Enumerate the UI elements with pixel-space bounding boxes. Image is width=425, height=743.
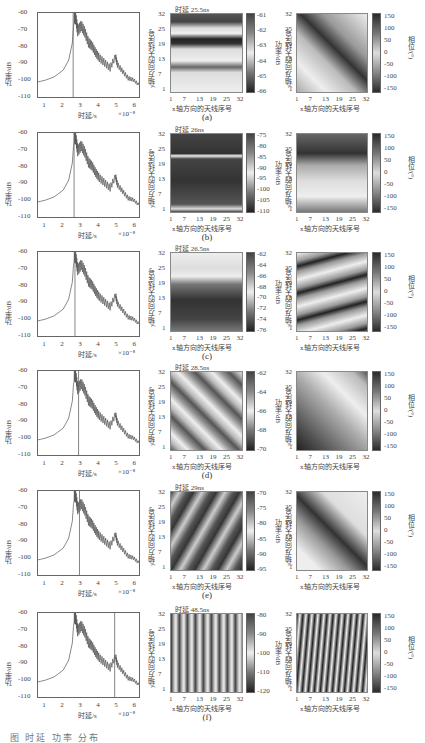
antenna-xtick: 13 [196, 215, 203, 223]
antenna-xtick: 1 [169, 695, 173, 703]
antenna-ytick: 7 [158, 548, 162, 556]
antenna-xtick: 7 [309, 573, 313, 581]
power-colorbar-tick: -70 [257, 293, 266, 301]
power-delay-plot [37, 490, 140, 576]
power-delay-plot [37, 12, 140, 98]
power-map-ylabel: y轴方向的天线序号 [147, 148, 157, 208]
antenna-ytick: 7 [285, 309, 289, 317]
phase-colorbar-tick: 100 [384, 502, 395, 510]
phase-colorbar-label: 相位/(°) [406, 636, 416, 672]
delay-xtick: 1 [42, 340, 46, 348]
delay-xtick: 1 [42, 459, 46, 467]
antenna-xtick: 13 [322, 453, 329, 461]
delay-xtick: 3 [78, 340, 82, 348]
antenna-xtick: 25 [223, 95, 230, 103]
antenna-ytick: 19 [285, 518, 292, 526]
antenna-ytick: 25 [158, 503, 165, 511]
power-colorbar-tick: -90 [257, 164, 266, 172]
antenna-xtick: 32 [237, 95, 244, 103]
power-colorbar-tick: -61 [257, 11, 266, 19]
subfigure-label: (b) [195, 232, 219, 242]
power-colorbar-tick: -66 [257, 87, 266, 95]
delay-xtick: 5 [114, 340, 118, 348]
antenna-xtick: 32 [237, 334, 244, 342]
phase-colorbar-tick: 100 [384, 263, 395, 271]
delay-xtick: 4 [96, 340, 100, 348]
antenna-ytick: 25 [158, 383, 165, 391]
antenna-xtick: 19 [210, 215, 217, 223]
power-colorbar-tick: -65 [257, 72, 266, 80]
power-colorbar-tick: -64 [257, 261, 266, 269]
delay-multiplier: ×10⁻⁸ [118, 588, 135, 596]
antenna-ytick: 25 [285, 264, 292, 272]
antenna-ytick: 19 [285, 279, 292, 287]
antenna-ytick: 7 [158, 190, 162, 198]
phase-colorbar [372, 252, 381, 332]
power-colorbar-tick: -80 [257, 611, 266, 619]
delay-multiplier: ×10⁻⁸ [118, 468, 135, 476]
power-ytick: -70 [18, 625, 27, 633]
power-ytick: -80 [18, 42, 27, 50]
phase-colorbar-tick: 0 [384, 168, 388, 176]
phase-colorbar-tick: -150 [384, 84, 397, 92]
figure-row-d: 功率/dB -60-70-80-90-100-110 123456 时延/s ×… [0, 364, 425, 484]
power-ytick: -90 [18, 297, 27, 305]
delay-xtick: 3 [78, 701, 82, 709]
power-ytick: -100 [18, 195, 31, 203]
antenna-xtick: 32 [363, 334, 370, 342]
delay-xtick: 3 [78, 459, 82, 467]
power-map-ylabel: y轴方向的天线序号 [147, 267, 157, 327]
power-colorbar [246, 613, 255, 693]
power-colorbar-tick: -64 [257, 57, 266, 65]
power-colorbar-tick: -63 [257, 41, 266, 49]
power-delay-curve [38, 13, 139, 97]
antenna-ytick: 7 [285, 70, 289, 78]
phase-colorbar-tick: 0 [384, 648, 388, 656]
power-delay-curve [38, 491, 139, 575]
antenna-xtick: 1 [169, 334, 173, 342]
subfigure-label: (d) [195, 470, 219, 480]
phase-colorbar-tick: -100 [384, 430, 397, 438]
phase-colorbar-tick: -50 [384, 180, 393, 188]
antenna-xtick: 19 [210, 95, 217, 103]
phase-map-xlabel: x轴方向的天线序号 [300, 703, 360, 713]
delay-xtick: 5 [114, 101, 118, 109]
power-ytick: -60 [18, 366, 27, 374]
antenna-xtick: 7 [309, 453, 313, 461]
delay-xtick: 6 [132, 340, 136, 348]
antenna-ytick: 19 [158, 279, 165, 287]
power-ytick: -70 [18, 25, 27, 33]
power-ytick: -90 [18, 536, 27, 544]
antenna-ytick: 32 [158, 249, 165, 257]
power-colorbar-tick: -76 [257, 326, 266, 334]
antenna-ytick: 13 [285, 533, 292, 541]
power-ylabel: 功率/dB [4, 504, 14, 564]
antenna-ytick: 25 [285, 625, 292, 633]
antenna-ytick: 13 [285, 413, 292, 421]
antenna-xtick: 1 [295, 453, 299, 461]
antenna-ytick: 1 [162, 443, 166, 451]
delay-xtick: 5 [114, 701, 118, 709]
antenna-xtick: 13 [196, 95, 203, 103]
figure-row-a: 功率/dB -60-70-80-90-100-110 123456 时延/s ×… [0, 6, 425, 126]
antenna-xtick: 7 [183, 573, 187, 581]
antenna-ytick: 32 [285, 488, 292, 496]
power-colorbar-tick: -75 [257, 504, 266, 512]
delay-xtick: 2 [60, 579, 64, 587]
phase-colorbar-tick: -50 [384, 60, 393, 68]
phase-heatmap [296, 371, 368, 451]
delay-xtick: 6 [132, 579, 136, 587]
power-ytick: -110 [18, 450, 31, 458]
power-colorbar-tick: -68 [257, 283, 266, 291]
subfigure-label: (c) [195, 351, 219, 361]
power-delay-curve [38, 252, 139, 336]
antenna-ytick: 25 [285, 25, 292, 33]
power-colorbar-tick: -66 [257, 272, 266, 280]
antenna-xtick: 13 [322, 573, 329, 581]
figure-row-b: 功率/dB -60-70-80-90-100-110 123456 时延/s ×… [0, 126, 425, 246]
antenna-ytick: 7 [158, 670, 162, 678]
phase-map-xlabel: x轴方向的天线序号 [300, 103, 360, 113]
delay-xtick: 1 [42, 701, 46, 709]
power-ytick: -90 [18, 416, 27, 424]
antenna-ytick: 32 [158, 368, 165, 376]
